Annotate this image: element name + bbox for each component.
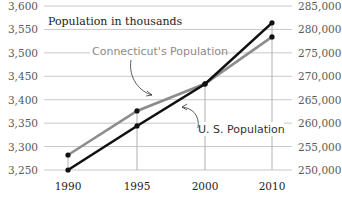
x-tick-label: 2010 — [259, 180, 286, 192]
right-tick-label: 255,000 — [298, 141, 341, 153]
right-tick-label: 270,000 — [298, 70, 341, 82]
left-tick-label: 3,450 — [8, 70, 38, 82]
left-tick-label: 3,250 — [8, 164, 38, 176]
data-point — [65, 167, 70, 172]
x-tick-label: 1990 — [55, 180, 82, 192]
right-tick-label: 260,000 — [298, 117, 341, 129]
x-axis-ticks: 1990199520002010 — [55, 180, 286, 192]
data-point — [65, 152, 70, 157]
right-tick-label: 275,000 — [298, 47, 341, 59]
data-point — [269, 20, 274, 25]
ct-arrow-icon — [131, 60, 152, 95]
right-tick-label: 280,000 — [298, 23, 341, 35]
right-tick-label: 285,000 — [298, 0, 341, 12]
series-lines — [65, 20, 274, 172]
us-annotation: U. S. Population — [198, 123, 285, 136]
right-tick-label: 250,000 — [298, 164, 341, 176]
right-axis-ticks: 285,000280,000275,000270,000265,000260,0… — [298, 0, 341, 176]
left-tick-label: 3,600 — [8, 0, 38, 12]
data-point — [269, 34, 274, 39]
us-arrow-icon — [182, 107, 198, 128]
left-tick-label: 3,350 — [8, 117, 38, 129]
chart-title: Population in thousands — [48, 15, 183, 28]
x-tick-label: 1995 — [124, 180, 151, 192]
right-tick-label: 265,000 — [298, 94, 341, 106]
ct-annotation: Connecticut's Population — [92, 45, 228, 58]
data-point — [202, 81, 207, 86]
left-tick-label: 3,300 — [8, 141, 38, 153]
x-tick-label: 2000 — [192, 180, 219, 192]
left-tick-label: 3,500 — [8, 47, 38, 59]
data-point — [134, 123, 139, 128]
left-tick-label: 3,550 — [8, 23, 38, 35]
data-point — [134, 108, 139, 113]
left-tick-label: 3,400 — [8, 94, 38, 106]
population-chart: 3,6003,5503,5003,4503,4003,3503,3003,250… — [0, 0, 342, 222]
left-axis-ticks: 3,6003,5503,5003,4503,4003,3503,3003,250 — [8, 0, 38, 176]
